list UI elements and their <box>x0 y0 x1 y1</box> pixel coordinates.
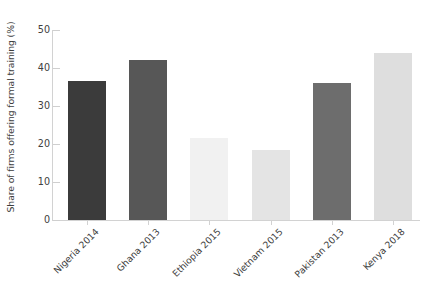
x-tick-label-text: Ethiopia 2015 <box>170 226 223 279</box>
y-tick-label: 0 <box>16 214 50 226</box>
x-tick-mark <box>393 221 394 225</box>
y-tick-label: 50 <box>16 24 50 36</box>
y-tick-label: 40 <box>16 62 50 74</box>
x-axis-category-labels: Nigeria 2014Ghana 2013Ethiopia 2015Vietn… <box>52 226 424 298</box>
bar-chart: Share of firms offering formal training … <box>0 0 424 298</box>
y-tick-label: 30 <box>16 100 50 112</box>
bar <box>68 81 106 220</box>
x-tick-label-text: Nigeria 2014 <box>51 226 101 276</box>
x-tick-mark <box>87 221 88 225</box>
x-tick-label-text: Kenya 2018 <box>361 226 407 272</box>
x-tick-label-text: Vietnam 2015 <box>231 226 284 279</box>
x-tick-label-text: Ghana 2013 <box>114 226 162 274</box>
x-tick-label-text: Pakistan 2013 <box>292 226 346 280</box>
y-tick-label: 20 <box>16 138 50 150</box>
x-tick-mark <box>209 221 210 225</box>
plot-area: 01020304050 <box>52 30 420 221</box>
bar <box>190 138 228 220</box>
y-axis-title: Share of firms offering formal training … <box>2 2 20 232</box>
bars-layer <box>52 30 420 221</box>
x-tick-mark <box>148 221 149 225</box>
x-tick-mark <box>332 221 333 225</box>
y-tick-label: 10 <box>16 176 50 188</box>
x-tick-mark <box>271 221 272 225</box>
